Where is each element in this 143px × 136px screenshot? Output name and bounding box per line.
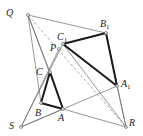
label-S: S <box>9 120 14 131</box>
label-P: P <box>49 42 56 53</box>
point-A1 <box>116 85 119 88</box>
line-R-A <box>63 109 126 127</box>
point-B1 <box>105 32 108 35</box>
geometry-diagram: QPC1B1A1CBASR <box>0 0 143 136</box>
line-Q-B1 <box>28 15 106 33</box>
point-P <box>58 48 61 51</box>
triangle-ABC <box>41 72 63 109</box>
label-A1: A1 <box>120 78 131 91</box>
dashed-line-Q-R <box>28 15 126 127</box>
dashed-line-QR <box>28 15 126 127</box>
point-A <box>62 108 65 111</box>
label-R: R <box>128 117 135 128</box>
point-Q <box>27 14 30 17</box>
label-B1: B1 <box>100 18 110 31</box>
triangle-A1B1C1 <box>63 33 117 86</box>
vertex-labels: QPC1B1A1CBASR <box>6 7 135 131</box>
point-C <box>49 71 52 74</box>
label-A: A <box>57 112 65 123</box>
label-Q: Q <box>6 7 14 18</box>
point-S <box>20 126 23 129</box>
line-S-C1 <box>21 44 63 127</box>
point-R <box>125 126 128 129</box>
line-S-A <box>21 109 63 127</box>
label-C1: C1 <box>57 31 68 44</box>
label-C: C <box>36 66 43 77</box>
point-B <box>40 102 43 105</box>
label-B: B <box>35 107 41 118</box>
